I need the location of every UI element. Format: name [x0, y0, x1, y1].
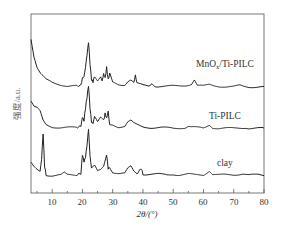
series-label-clay: clay	[217, 158, 233, 168]
x-tick-10: 10	[48, 197, 58, 207]
x-axis-label: 2θ/(°)	[136, 209, 157, 219]
mnox-suffix: /Ti-PILC	[219, 59, 254, 69]
y-axis-label: 强度/a.u.	[12, 88, 22, 121]
x-tick-40: 40	[139, 197, 149, 207]
xrd-chart: 10 20 30 40 50 60 70 80 2θ/(°) 强度/a.u. M…	[0, 0, 283, 233]
x-tick-30: 30	[109, 197, 119, 207]
x-axis-tick-labels: 10 20 30 40 50 60 70 80	[48, 197, 270, 207]
x-tick-60: 60	[199, 197, 209, 207]
x-tick-70: 70	[230, 197, 240, 207]
trace-ti-pilc	[31, 86, 264, 129]
x-axis-ticks	[37, 189, 264, 193]
trace-clay	[31, 129, 264, 176]
x-tick-20: 20	[78, 197, 88, 207]
mnox-prefix: MnO	[196, 59, 216, 69]
series-label-mnox-ti-pilc: MnOx/Ti-PILC	[196, 59, 254, 70]
x-tick-50: 50	[169, 197, 179, 207]
series-label-ti-pilc: Ti-PILC	[209, 111, 241, 121]
x-tick-80: 80	[260, 197, 270, 207]
